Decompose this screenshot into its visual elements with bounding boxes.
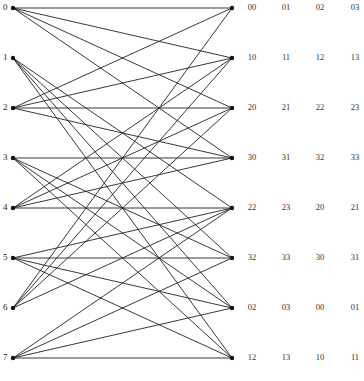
right-node-label: 03 [345, 2, 364, 12]
right-node [230, 206, 234, 210]
edge [13, 58, 232, 108]
right-node-label: 12 [242, 352, 262, 362]
right-node-label: 23 [345, 102, 364, 112]
right-node-label: 03 [276, 302, 296, 312]
right-node-label: 11 [276, 52, 296, 62]
right-node-label: 31 [345, 252, 364, 262]
left-node-label: 0 [3, 2, 11, 12]
left-node [11, 206, 15, 210]
edge [13, 208, 232, 358]
right-node-label: 01 [345, 302, 364, 312]
left-node-label: 5 [3, 252, 11, 262]
right-node-label: 30 [310, 252, 330, 262]
right-node-label: 00 [310, 302, 330, 312]
right-node-label: 33 [345, 152, 364, 162]
right-node-label: 32 [242, 252, 262, 262]
right-node-label: 10 [310, 352, 330, 362]
right-node-label: 21 [276, 102, 296, 112]
right-node-label: 00 [242, 2, 262, 12]
right-node [230, 256, 234, 260]
left-node-label: 4 [3, 202, 11, 212]
right-node [230, 56, 234, 60]
right-node-label: 22 [310, 102, 330, 112]
left-node [11, 356, 15, 360]
left-node [11, 106, 15, 110]
left-node [11, 56, 15, 60]
right-node-label: 20 [310, 202, 330, 212]
right-node-label: 22 [242, 202, 262, 212]
left-node-label: 7 [3, 352, 11, 362]
right-node-label: 13 [276, 352, 296, 362]
left-node-label: 2 [3, 102, 11, 112]
right-node-label: 10 [242, 52, 262, 62]
right-node-label: 02 [310, 2, 330, 12]
right-node-label: 20 [242, 102, 262, 112]
edge [13, 8, 232, 58]
left-node-label: 3 [3, 152, 11, 162]
right-node-label: 13 [345, 52, 364, 62]
left-node [11, 6, 15, 10]
left-node [11, 256, 15, 260]
right-node-label: 31 [276, 152, 296, 162]
right-node [230, 156, 234, 160]
right-node-label: 11 [345, 352, 364, 362]
right-node-label: 02 [242, 302, 262, 312]
right-node [230, 306, 234, 310]
left-node-label: 6 [3, 302, 11, 312]
edge-layer [13, 8, 232, 358]
right-node [230, 356, 234, 360]
right-node-label: 12 [310, 52, 330, 62]
right-node-label: 33 [276, 252, 296, 262]
right-node-label: 01 [276, 2, 296, 12]
right-node-label: 30 [242, 152, 262, 162]
right-node-label: 32 [310, 152, 330, 162]
edge [13, 208, 232, 258]
right-node-label: 23 [276, 202, 296, 212]
edge [13, 308, 232, 358]
left-node-label: 1 [3, 52, 11, 62]
right-node-label: 21 [345, 202, 364, 212]
right-node [230, 6, 234, 10]
right-node [230, 106, 234, 110]
left-node [11, 306, 15, 310]
left-node [11, 156, 15, 160]
